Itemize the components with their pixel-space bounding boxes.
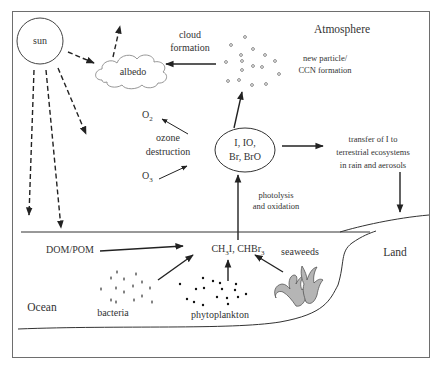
halogen-species-node: I, IO, Br, BrO [215,128,275,172]
aerosol-particles [225,36,281,87]
seaweeds-arrow [255,255,283,272]
transfer-label-1: transfer of I to [349,134,398,144]
cloud-formation-label-2: formation [170,42,209,53]
photolysis-label-1: photolysis [259,190,294,200]
land-surface-line [340,215,429,232]
particle-formation-arrow [234,92,242,128]
halogen-ellipse [215,128,275,172]
sun-label: sun [33,35,47,46]
dom-pom-label: DOM/POM [46,244,94,255]
bacteria-label: bacteria [97,307,129,318]
phytoplankton-label: phytoplankton [191,309,249,320]
land-label: Land [383,246,407,258]
halogen-cycle-diagram: sun albedo cloud formation new particle [0,0,441,370]
ozone-destruction-label-1: ozone [156,132,180,143]
seaweeds-label: seaweeds [281,246,319,257]
albedo-label: albedo [120,66,147,77]
atmosphere-label: Atmosphere [314,23,370,36]
bacteria-arrow [158,255,193,280]
halogen-label-2: Br, BrO [229,151,261,162]
transfer-label-3: in rain and aerosols [340,160,406,170]
halogen-label-1: I, IO, [234,137,255,148]
o2-label: O2 [142,109,153,123]
transfer-label-2: terrestrial ecosystems [336,147,409,157]
cloud-formation-label-1: cloud [179,29,201,40]
phytoplankton-cluster [179,277,247,306]
bacteria-cluster [100,270,153,304]
emissions-label: CH3I, CHBr3 [211,243,265,257]
o3-label: O3 [142,170,153,184]
ozone-destruction-label-2: destruction [146,146,190,157]
o3-arrow [159,166,187,179]
diagram-frame [13,12,430,358]
ocean-label: Ocean [27,301,57,313]
dom-pom-arrow [100,246,183,251]
sun-node: sun [17,18,63,64]
albedo-cloud: albedo [96,55,167,89]
photolysis-label-2: and oxidation [253,201,300,211]
new-particle-label-1: new particle/ [303,53,348,63]
new-particle-label-2: CCN formation [298,65,352,75]
